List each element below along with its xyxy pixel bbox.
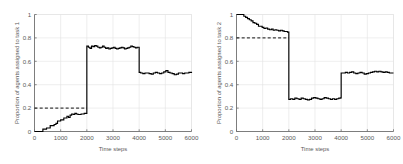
x-tick-label: 5000 — [360, 134, 374, 141]
x-tick-label: 5000 — [158, 134, 172, 141]
line-chart-task-1: 010002000300040005000600000.20.40.60.81T… — [0, 0, 202, 164]
x-tick-label: 1000 — [54, 134, 68, 141]
x-tick-label: 6000 — [185, 134, 199, 141]
figure-container: 010002000300040005000600000.20.40.60.81T… — [0, 0, 403, 164]
y-tick-label: 1 — [229, 11, 233, 18]
y-tick-label: 0 — [229, 128, 233, 135]
x-tick-label: 0 — [33, 134, 37, 141]
y-tick-label: 0.4 — [23, 81, 32, 88]
x-tick-label: 3000 — [308, 134, 322, 141]
x-tick-label: 0 — [234, 134, 238, 141]
x-axis-label: Time steps — [99, 146, 128, 152]
y-tick-label: 0.6 — [23, 58, 32, 65]
line-chart-task-2: 010002000300040005000600000.20.40.60.81T… — [202, 0, 403, 164]
y-axis-label: Proportion of agents assigned to task 1 — [14, 22, 20, 124]
x-tick-label: 1000 — [255, 134, 269, 141]
y-tick-label: 0.2 — [224, 104, 233, 111]
chart-panel-task-1: 010002000300040005000600000.20.40.60.81T… — [0, 0, 202, 164]
x-tick-label: 2000 — [80, 134, 94, 141]
x-tick-label: 4000 — [132, 134, 146, 141]
y-tick-label: 0.8 — [23, 34, 32, 41]
y-tick-label: 1 — [28, 11, 32, 18]
y-tick-label: 0.6 — [224, 58, 233, 65]
y-tick-label: 0.8 — [224, 34, 233, 41]
x-tick-label: 6000 — [386, 134, 400, 141]
y-tick-label: 0.2 — [23, 104, 32, 111]
y-axis-label: Proportion of agents assigned to task 2 — [216, 22, 222, 124]
y-tick-label: 0.4 — [224, 81, 233, 88]
x-tick-label: 3000 — [106, 134, 120, 141]
y-tick-label: 0 — [28, 128, 32, 135]
x-axis-label: Time steps — [300, 146, 329, 152]
chart-panel-task-2: 010002000300040005000600000.20.40.60.81T… — [202, 0, 403, 164]
x-tick-label: 2000 — [281, 134, 295, 141]
x-tick-label: 4000 — [334, 134, 348, 141]
